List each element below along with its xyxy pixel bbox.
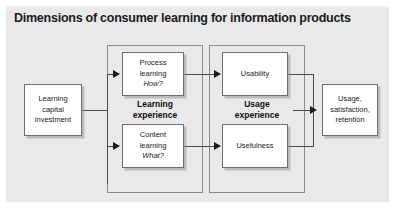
node-content-question: What? bbox=[142, 151, 164, 160]
connector-usefulness-out bbox=[288, 146, 313, 147]
node-outcome-line3: retention bbox=[335, 115, 364, 124]
connector-usability-out bbox=[288, 74, 313, 75]
node-usability-label: Usability bbox=[241, 69, 269, 78]
node-usability: Usability bbox=[222, 52, 288, 96]
node-outcome-line2: satisfaction, bbox=[330, 105, 370, 114]
arrowhead-to-outcome bbox=[310, 106, 317, 114]
node-investment-line3: investment bbox=[35, 115, 71, 124]
node-outcome-line1: Usage, bbox=[338, 94, 362, 103]
group-label-learning-experience: Learning experience bbox=[107, 99, 203, 121]
node-process-line1: Process bbox=[139, 58, 166, 67]
node-investment-line2: capital bbox=[42, 105, 64, 114]
arrowhead-to-content bbox=[113, 142, 120, 150]
group-learning-line2: experience bbox=[133, 110, 177, 120]
connector-content-usefulness bbox=[184, 146, 215, 147]
arrowhead-to-process bbox=[113, 70, 120, 78]
node-investment-line1: Learning bbox=[38, 94, 67, 103]
node-content-learning: Content learning What? bbox=[122, 124, 184, 168]
node-process-line2: learning bbox=[140, 69, 167, 78]
group-usage-line1: Usage bbox=[244, 99, 270, 109]
node-learning-capital-investment: Learning capital investment bbox=[24, 84, 82, 136]
figure-container: Dimensions of consumer learning for info… bbox=[0, 0, 398, 215]
arrowhead-to-usefulness bbox=[214, 142, 221, 150]
connector-split-trunk bbox=[107, 74, 108, 184]
connector-investment-out bbox=[82, 110, 107, 111]
connector-process-usability bbox=[184, 74, 215, 75]
node-content-line2: learning bbox=[140, 141, 167, 150]
node-content-line1: Content bbox=[140, 130, 166, 139]
node-usefulness: Usefulness bbox=[222, 124, 288, 168]
arrowhead-to-usability bbox=[214, 70, 221, 78]
node-usage-satisfaction-retention: Usage, satisfaction, retention bbox=[322, 84, 378, 136]
group-label-usage-experience: Usage experience bbox=[209, 99, 305, 121]
node-process-learning: Process learning How? bbox=[122, 52, 184, 96]
group-learning-line1: Learning bbox=[137, 99, 173, 109]
group-usage-line2: experience bbox=[235, 110, 279, 120]
figure-title: Dimensions of consumer learning for info… bbox=[14, 11, 351, 25]
node-usefulness-label: Usefulness bbox=[236, 141, 273, 150]
node-process-question: How? bbox=[143, 79, 162, 88]
